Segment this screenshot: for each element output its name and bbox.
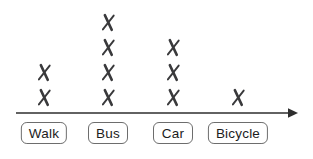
x-mark-icon [100,10,117,35]
mark-column-walk [36,60,53,110]
mark-column-car [165,35,182,110]
x-mark-icon [230,85,247,110]
category-label-text: Bicycle [216,126,260,141]
x-mark-icon [100,60,117,85]
dot-plot-chart: WalkBusCarBicycle [0,0,313,159]
category-label-walk: Walk [21,122,67,144]
mark-column-bus [100,10,117,110]
category-label-text: Walk [29,126,59,141]
x-mark-icon [100,85,117,110]
x-mark-icon [165,60,182,85]
x-mark-icon [100,35,117,60]
mark-column-bicycle [230,85,247,110]
x-mark-icon [36,60,53,85]
category-labels: WalkBusCarBicycle [0,122,313,148]
category-label-bicycle: Bicycle [208,122,268,144]
x-mark-icon [165,35,182,60]
category-label-text: Bus [96,126,120,141]
x-mark-icon [36,85,53,110]
category-label-text: Car [162,126,184,141]
category-label-car: Car [153,122,193,144]
x-mark-icon [165,85,182,110]
category-label-bus: Bus [88,122,128,144]
